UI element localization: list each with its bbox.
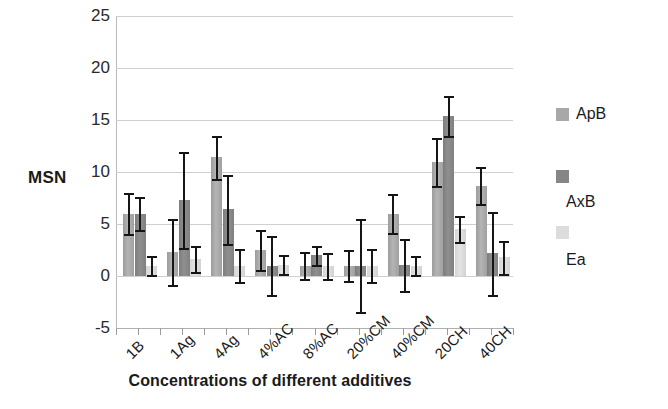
error-bar-line: [139, 197, 141, 230]
x-tick-label-1B: 1B: [122, 337, 147, 362]
legend-label: AxB: [566, 193, 595, 211]
error-bar-line: [183, 152, 185, 248]
bar-chart: MSN -50510152025 1B1Ag4Ag4%AC8%AC20%CM40…: [0, 0, 668, 409]
error-bar-cap-bottom: [312, 265, 322, 267]
error-bar-cap-top: [356, 219, 366, 221]
error-bar-line: [227, 175, 229, 244]
y-tick-label: 15: [76, 110, 110, 130]
x-axis-title: Concentrations of different additives: [0, 372, 540, 390]
error-bar-cap-top: [267, 236, 277, 238]
error-bar-line: [480, 167, 482, 204]
error-bar-cap-bottom: [147, 275, 157, 277]
error-bar-cap-top: [168, 219, 178, 221]
error-bar-cap-top: [323, 253, 333, 255]
error-bar-cap-top: [256, 230, 266, 232]
x-tick-label-1Ag: 1Ag: [166, 331, 197, 362]
error-bar-cap-bottom: [191, 272, 201, 274]
error-bar-cap-top: [444, 96, 454, 98]
error-bar-cap-bottom: [432, 186, 442, 188]
error-bar-cap-top: [179, 152, 189, 154]
error-bar-line: [260, 230, 262, 270]
error-bar-cap-top: [432, 138, 442, 140]
y-axis-tick-labels: -50510152025: [64, 0, 110, 409]
error-bar-cap-bottom: [444, 136, 454, 138]
x-tick-label-8%AC: 8%AC: [298, 319, 341, 362]
bars-layer: [116, 16, 513, 328]
error-bar-cap-bottom: [256, 270, 266, 272]
error-bar-cap-top: [191, 246, 201, 248]
error-bar-line: [195, 246, 197, 272]
error-bar-cap-bottom: [499, 274, 509, 276]
y-tick-label: -5: [76, 318, 110, 338]
legend-swatch-icon: [556, 108, 569, 121]
y-axis-title: MSN: [28, 168, 67, 188]
error-bar-line: [459, 216, 461, 242]
error-bar-cap-top: [279, 255, 289, 257]
error-bar-cap-bottom: [388, 233, 398, 235]
error-bar-line: [304, 252, 306, 279]
legend-swatch-icon: [556, 170, 569, 183]
error-bar-cap-top: [367, 249, 377, 251]
x-tick-label-4Ag: 4Ag: [210, 331, 241, 362]
legend: ApBAxBEa: [556, 108, 664, 288]
error-bar-line: [216, 136, 218, 180]
error-bar-line: [436, 138, 438, 186]
error-bar-line: [327, 253, 329, 279]
error-bar-line: [392, 194, 394, 234]
error-bar-cap-top: [235, 249, 245, 251]
y-tick-label: 10: [76, 162, 110, 182]
error-bar-cap-top: [312, 246, 322, 248]
error-bar-cap-top: [411, 256, 421, 258]
error-bar-cap-top: [488, 212, 498, 214]
y-tick-label: 0: [76, 266, 110, 286]
error-bar-line: [172, 219, 174, 286]
x-tick-label-40%CM: 40%CM: [387, 312, 437, 362]
bar-AxB-20CH: [443, 116, 454, 276]
y-tick-label: 20: [76, 58, 110, 78]
error-bar-cap-top: [499, 241, 509, 243]
x-tick-label-20CH: 20CH: [431, 322, 471, 362]
error-bar-cap-bottom: [476, 204, 486, 206]
error-bar-cap-top: [344, 250, 354, 252]
error-bar-cap-top: [135, 197, 145, 199]
error-bar-cap-top: [212, 136, 222, 138]
error-bar-cap-top: [476, 167, 486, 169]
error-bar-cap-bottom: [135, 230, 145, 232]
error-bar-cap-bottom: [179, 248, 189, 250]
x-tick-label-40CH: 40CH: [475, 322, 515, 362]
error-bar-cap-bottom: [300, 279, 310, 281]
error-bar-cap-top: [223, 175, 233, 177]
legend-label: Ea: [566, 251, 586, 269]
error-bar-line: [415, 256, 417, 275]
x-tick-label-20%CM: 20%CM: [343, 312, 393, 362]
error-bar-cap-bottom: [323, 279, 333, 281]
error-bar-cap-top: [455, 216, 465, 218]
error-bar-cap-top: [124, 193, 134, 195]
error-bar-cap-bottom: [455, 242, 465, 244]
error-bar-line: [128, 193, 130, 235]
error-bar-line: [448, 96, 450, 136]
error-bar-line: [371, 249, 373, 282]
error-bar-cap-bottom: [279, 274, 289, 276]
legend-swatch-icon: [556, 226, 569, 239]
error-bar-cap-top: [300, 252, 310, 254]
error-bar-cap-bottom: [124, 234, 134, 236]
error-bar-cap-top: [388, 194, 398, 196]
error-bar-cap-bottom: [223, 244, 233, 246]
error-bar-line: [151, 256, 153, 275]
plot-area: [116, 16, 513, 328]
error-bar-cap-bottom: [212, 179, 222, 181]
error-bar-line: [503, 241, 505, 274]
error-bar-line: [316, 246, 318, 265]
legend-label: ApB: [576, 105, 606, 123]
error-bar-line: [239, 249, 241, 282]
error-bar-cap-top: [147, 256, 157, 258]
error-bar-cap-bottom: [411, 275, 421, 277]
y-tick-label: 5: [76, 214, 110, 234]
x-tick-label-4%AC: 4%AC: [254, 319, 297, 362]
error-bar-cap-top: [400, 239, 410, 241]
error-bar-line: [348, 250, 350, 281]
error-bar-line: [283, 255, 285, 274]
y-tick-label: 25: [76, 6, 110, 26]
